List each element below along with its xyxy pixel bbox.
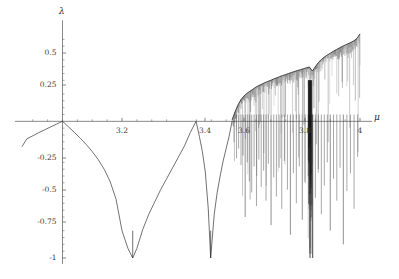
y-tick-label: -0.5 xyxy=(42,185,56,194)
left-branch-stub xyxy=(22,139,27,147)
x-tick-label: 3.6 xyxy=(238,126,250,135)
x-tick-label: 3.2 xyxy=(116,126,128,135)
x-tick-label: 3.4 xyxy=(199,126,211,135)
lyapunov-exponent-plot: λ μ 3.23.43.63.840.50.25-0.25-0.5-0.75-1 xyxy=(0,0,399,279)
x-tick-label: 4 xyxy=(358,126,363,135)
periodic-branch-curve xyxy=(27,121,232,258)
y-tick-label: -0.25 xyxy=(37,153,56,162)
y-tick-label: 0.25 xyxy=(40,80,57,89)
y-tick-label: -1 xyxy=(49,253,56,262)
curve-group xyxy=(22,34,360,258)
plot-canvas xyxy=(0,0,399,279)
chaotic-upper-envelope xyxy=(232,34,360,120)
y-tick-label: 0.5 xyxy=(45,48,57,57)
x-tick-label: 3.8 xyxy=(299,126,311,135)
x-axis-label: μ xyxy=(374,112,380,122)
y-tick-label: -0.75 xyxy=(37,217,56,226)
y-axis-label: λ xyxy=(59,6,65,16)
